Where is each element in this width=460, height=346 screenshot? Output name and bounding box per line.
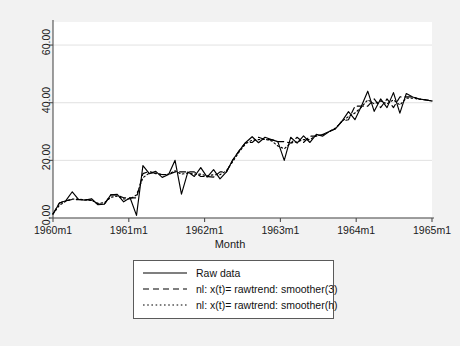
x-axis-tick-label: 1960m1 bbox=[34, 224, 72, 236]
legend-item: nl: x(t)= rawtrend: smoother(3) bbox=[134, 281, 333, 297]
dotted-line-key bbox=[142, 299, 188, 311]
x-axis-title: Month bbox=[0, 238, 460, 250]
y-axis-tick-label: 20.00 bbox=[40, 160, 52, 206]
chart-figure: 0.0020.0040.0060.00 1960m11961m11962m119… bbox=[0, 0, 460, 346]
x-axis-tick-label: 1963m1 bbox=[261, 224, 299, 236]
x-axis-tick-label: 1964m1 bbox=[337, 224, 375, 236]
y-axis-tick-label: 60.00 bbox=[40, 45, 52, 91]
x-axis-tick-label: 1965m1 bbox=[413, 224, 451, 236]
legend-item: Raw data bbox=[134, 265, 333, 281]
x-axis-tick-label: 1961m1 bbox=[110, 224, 148, 236]
legend-label: nl: x(t)= rawtrend: smoother(3) bbox=[196, 283, 338, 295]
solid-line-key bbox=[142, 267, 188, 279]
legend-item: nl: x(t)= rawtrend: smoother(h) bbox=[134, 297, 333, 313]
legend-label: Raw data bbox=[196, 267, 240, 279]
legend-label: nl: x(t)= rawtrend: smoother(h) bbox=[196, 299, 338, 311]
plot-background bbox=[53, 22, 432, 218]
dashed-line-key bbox=[142, 283, 188, 295]
legend: Raw data nl: x(t)= rawtrend: smoother(3)… bbox=[133, 260, 334, 319]
y-axis-tick-label: 40.00 bbox=[40, 103, 52, 149]
x-axis-tick-label: 1962m1 bbox=[186, 224, 224, 236]
